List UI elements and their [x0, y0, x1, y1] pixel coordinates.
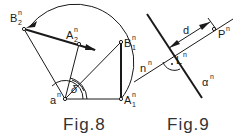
label-n-sup: n: [148, 59, 152, 66]
label-L-sup: n: [183, 51, 187, 58]
point-B1: [119, 40, 122, 43]
label-L: L: [176, 54, 182, 66]
point-A1: [119, 97, 122, 100]
arc-arrowhead: [26, 21, 37, 28]
label-angle-delta: δ: [71, 83, 78, 95]
label-d: d: [183, 24, 189, 36]
label-A1: A: [124, 94, 132, 106]
label-A1-sub: 1: [132, 101, 136, 108]
label-B1-sup: n: [132, 34, 136, 41]
point-B2: [22, 27, 25, 30]
label-a-sup: n: [57, 91, 61, 98]
caption-fig-8: Fig.8: [63, 115, 106, 134]
label-A2-sub: 2: [74, 36, 78, 43]
label-alpha: α: [202, 76, 209, 88]
label-P-sup: n: [226, 25, 230, 32]
point-P: [212, 27, 215, 30]
right-angle-dot: [171, 63, 173, 65]
geometry-figures: B n 2 A n 2 B n 1 A n 1 a n δ Fig.8: [0, 0, 244, 139]
dimension-arrow-end: [199, 22, 210, 30]
point-a: [63, 97, 66, 100]
label-A2-sup: n: [74, 26, 78, 33]
label-P: P: [218, 28, 225, 40]
label-A2: A: [66, 29, 74, 41]
figure-8: [22, 4, 133, 100]
label-n: n: [140, 62, 146, 74]
label-B1: B: [124, 37, 131, 49]
figure-9-labels: d P n L n n n α n Fig.9: [140, 24, 230, 134]
label-a: a: [50, 94, 57, 106]
label-B2-sub: 2: [18, 19, 22, 26]
label-B2: B: [10, 12, 17, 24]
label-B1-sub: 1: [132, 44, 136, 51]
caption-fig-9: Fig.9: [167, 115, 210, 134]
dimension-arrow-start: [169, 40, 180, 48]
label-alpha-sup: n: [210, 73, 214, 80]
figure-8-labels: B n 2 A n 2 B n 1 A n 1 a n δ Fig.8: [10, 9, 136, 134]
label-A1-sup: n: [132, 91, 136, 98]
segment-arrowhead: [85, 44, 96, 50]
label-B2-sup: n: [18, 9, 22, 16]
